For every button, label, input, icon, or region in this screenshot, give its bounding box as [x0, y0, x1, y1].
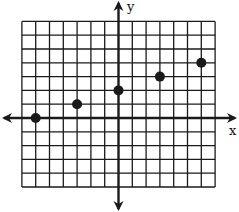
data-point [155, 72, 165, 82]
data-point [114, 85, 124, 95]
data-point [31, 113, 41, 123]
x-axis-label: x [229, 124, 236, 137]
coordinate-plane [0, 0, 239, 212]
data-point [196, 58, 206, 68]
data-point [72, 99, 82, 109]
y-axis-label: y [127, 0, 134, 13]
